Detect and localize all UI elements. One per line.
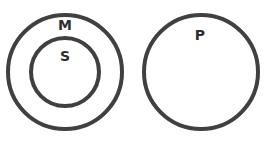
label-m: M [58,17,72,33]
label-p: P [195,27,205,43]
euler-diagram: M S P [0,0,276,143]
label-s: S [60,48,70,64]
